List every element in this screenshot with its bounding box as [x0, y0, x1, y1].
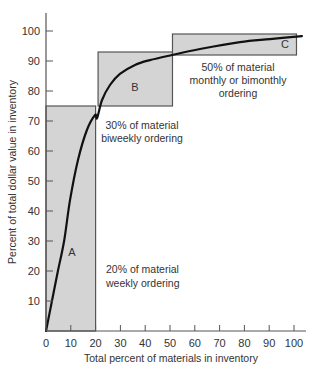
- svg-text:monthly or bimonthly: monthly or bimonthly: [190, 74, 288, 86]
- region-label-c: C: [281, 38, 289, 50]
- annotation-c: 50% of material monthly or bimonthly ord…: [190, 61, 288, 99]
- x-tick-label: 0: [43, 337, 49, 349]
- y-tick-label: 100: [22, 25, 40, 37]
- x-tick-label: 30: [114, 337, 126, 349]
- x-tick-label: 60: [189, 337, 201, 349]
- annotation-b: 30% of material biweekly ordering: [101, 119, 183, 144]
- x-tick-label: 100: [285, 337, 303, 349]
- x-tick-label: 10: [65, 337, 77, 349]
- y-tick-label: 40: [28, 205, 40, 217]
- x-axis-label: Total percent of materials in inventory: [84, 352, 259, 364]
- y-tick-label: 50: [28, 175, 40, 187]
- x-tick-label: 20: [89, 337, 101, 349]
- x-tick-label: 40: [139, 337, 151, 349]
- svg-text:weekly ordering: weekly ordering: [105, 277, 180, 289]
- y-tick-label: 20: [28, 265, 40, 277]
- svg-text:20% of material: 20% of material: [106, 263, 179, 275]
- x-tick-label: 70: [213, 337, 225, 349]
- y-tick-label: 90: [28, 55, 40, 67]
- x-tick-label: 90: [263, 337, 275, 349]
- y-tick-label: 70: [28, 115, 40, 127]
- y-tick-label: 30: [28, 235, 40, 247]
- svg-text:biweekly ordering: biweekly ordering: [101, 132, 183, 144]
- x-tick-label: 50: [164, 337, 176, 349]
- region-label-b: B: [131, 81, 138, 93]
- region-b-box: [98, 52, 172, 106]
- abc-analysis-chart: 0102030405060708090100 10203040506070809…: [0, 0, 314, 370]
- y-tick-label: 60: [28, 145, 40, 157]
- x-tick-label: 80: [238, 337, 250, 349]
- svg-text:ordering: ordering: [219, 87, 258, 99]
- svg-text:30% of material: 30% of material: [106, 119, 179, 131]
- region-label-a: A: [68, 246, 76, 258]
- y-axis-label: Percent of total dollar value in invento…: [6, 79, 18, 264]
- y-tick-label: 10: [28, 295, 40, 307]
- svg-text:50% of material: 50% of material: [202, 61, 275, 73]
- y-tick-label: 80: [28, 85, 40, 97]
- annotation-a: 20% of material weekly ordering: [105, 263, 180, 289]
